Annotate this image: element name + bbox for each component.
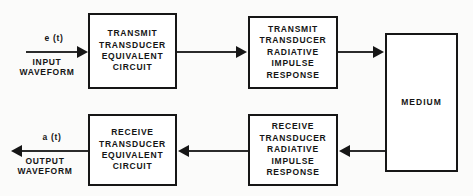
connector-transmit-radiative-to-medium: [338, 51, 374, 53]
signal-label-input-caption-line1: INPUT: [8, 57, 86, 67]
block-line: IMPULSE: [271, 58, 314, 69]
connector-medium-to-receive-radiative: [350, 150, 385, 152]
block-line: CIRCUIT: [113, 62, 153, 73]
block-line: EQUIVALENT: [102, 51, 164, 62]
block-line: RECEIVE: [272, 121, 315, 132]
arrowhead-receive-chain-left-icon: [178, 145, 189, 157]
block-line: TRANSDUCER: [99, 139, 166, 150]
block-line: CIRCUIT: [113, 161, 153, 172]
signal-label-input-caption: INPUT WAVEFORM: [8, 57, 86, 77]
block-line: RESPONSE: [266, 167, 319, 178]
signal-label-input-caption-line2: WAVEFORM: [8, 67, 86, 77]
block-diagram: e (t) INPUT WAVEFORM TRANSMIT TRANSDUCER…: [0, 0, 473, 196]
arrowhead-into-medium-right-icon: [373, 46, 384, 58]
signal-label-output-caption: OUTPUT WAVEFORM: [6, 156, 84, 176]
connector-input-to-transmit-equivalent-circuit: [26, 51, 78, 53]
block-line: MEDIUM: [401, 97, 441, 108]
block-line: EQUIVALENT: [102, 150, 164, 161]
block-line: TRANSMIT: [108, 28, 158, 39]
arrowhead-from-medium-left-icon: [339, 145, 350, 157]
block-line: RADIATIVE: [267, 47, 319, 58]
block-transmit-transducer-equivalent-circuit: TRANSMIT TRANSDUCER EQUIVALENT CIRCUIT: [88, 13, 177, 89]
connector-receive-radiative-to-receive-equivalent: [189, 150, 248, 152]
connector-transmit-equivalent-to-transmit-radiative: [177, 51, 237, 53]
block-line: RECEIVE: [111, 127, 154, 138]
block-line: TRANSDUCER: [260, 35, 327, 46]
block-line: TRANSDUCER: [99, 40, 166, 51]
block-line: IMPULSE: [271, 156, 314, 167]
block-receive-transducer-equivalent-circuit: RECEIVE TRANSDUCER EQUIVALENT CIRCUIT: [88, 114, 177, 186]
connector-receive-equivalent-to-output: [22, 150, 88, 152]
signal-label-output-caption-line2: WAVEFORM: [6, 166, 84, 176]
block-receive-transducer-radiative-impulse-response: RECEIVE TRANSDUCER RADIATIVE IMPULSE RES…: [248, 114, 338, 186]
block-line: TRANSDUCER: [260, 133, 327, 144]
arrowhead-transmit-chain-right-icon: [236, 46, 247, 58]
block-line: RADIATIVE: [267, 144, 319, 155]
signal-label-output-caption-line1: OUTPUT: [6, 156, 84, 166]
block-transmit-transducer-radiative-impulse-response: TRANSMIT TRANSDUCER RADIATIVE IMPULSE RE…: [248, 16, 338, 89]
block-line: RESPONSE: [266, 70, 319, 81]
block-medium: MEDIUM: [385, 33, 458, 172]
block-line: TRANSMIT: [268, 24, 318, 35]
signal-label-input-symbol: e (t): [30, 33, 78, 43]
signal-label-output-symbol: a (t): [28, 132, 76, 142]
